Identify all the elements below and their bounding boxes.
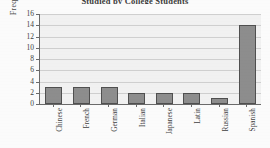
- x-tick-label: German: [111, 108, 120, 148]
- x-tick-mark: [219, 104, 220, 107]
- bar: [45, 87, 62, 104]
- bar: [128, 93, 145, 104]
- y-tick-label: 12: [27, 33, 35, 41]
- y-tick-label: 4: [30, 78, 34, 86]
- bar: [156, 93, 173, 104]
- plot-area: 0246810121416: [39, 14, 261, 105]
- y-tick-label: 8: [30, 55, 34, 63]
- y-tick-label: 0: [30, 100, 34, 108]
- y-tick-label: 16: [27, 10, 35, 18]
- bar-slot: [211, 14, 228, 104]
- chart-figure: Studied by College Students Frequency 02…: [0, 0, 270, 148]
- y-tick-label: 14: [27, 22, 35, 30]
- x-tick-mark: [136, 104, 137, 107]
- y-tick-label: 2: [30, 89, 34, 97]
- bar: [101, 87, 118, 104]
- bar-slot: [239, 14, 256, 104]
- bar-slot: [45, 14, 62, 104]
- bar-slot: [183, 14, 200, 104]
- x-tick-label: Chinese: [56, 108, 65, 148]
- x-tick-mark: [53, 104, 54, 107]
- bar: [239, 25, 256, 104]
- y-tick-label: 10: [27, 44, 35, 52]
- bar: [183, 93, 200, 104]
- x-tick-mark: [246, 104, 247, 107]
- y-tick-label: 6: [30, 67, 34, 75]
- x-tick-label: Spanish: [249, 108, 258, 148]
- bar-slot: [156, 14, 173, 104]
- y-tick-mark: [36, 104, 40, 105]
- y-axis-label: Frequency: [9, 0, 19, 28]
- x-tick-mark: [163, 104, 164, 107]
- bar: [73, 87, 90, 104]
- bar-series: [40, 14, 261, 104]
- x-tick-label: French: [83, 108, 92, 148]
- x-tick-mark: [191, 104, 192, 107]
- bar-slot: [73, 14, 90, 104]
- bar-slot: [128, 14, 145, 104]
- x-tick-label: Latin: [194, 108, 203, 148]
- chart-title: Studied by College Students: [0, 0, 270, 4]
- x-tick-label: Russian: [222, 108, 231, 148]
- x-tick-mark: [80, 104, 81, 107]
- x-tick-label: Japanese: [166, 108, 175, 148]
- x-tick-label: Italian: [139, 108, 148, 148]
- bar: [211, 98, 228, 104]
- bar-slot: [101, 14, 118, 104]
- x-tick-mark: [108, 104, 109, 107]
